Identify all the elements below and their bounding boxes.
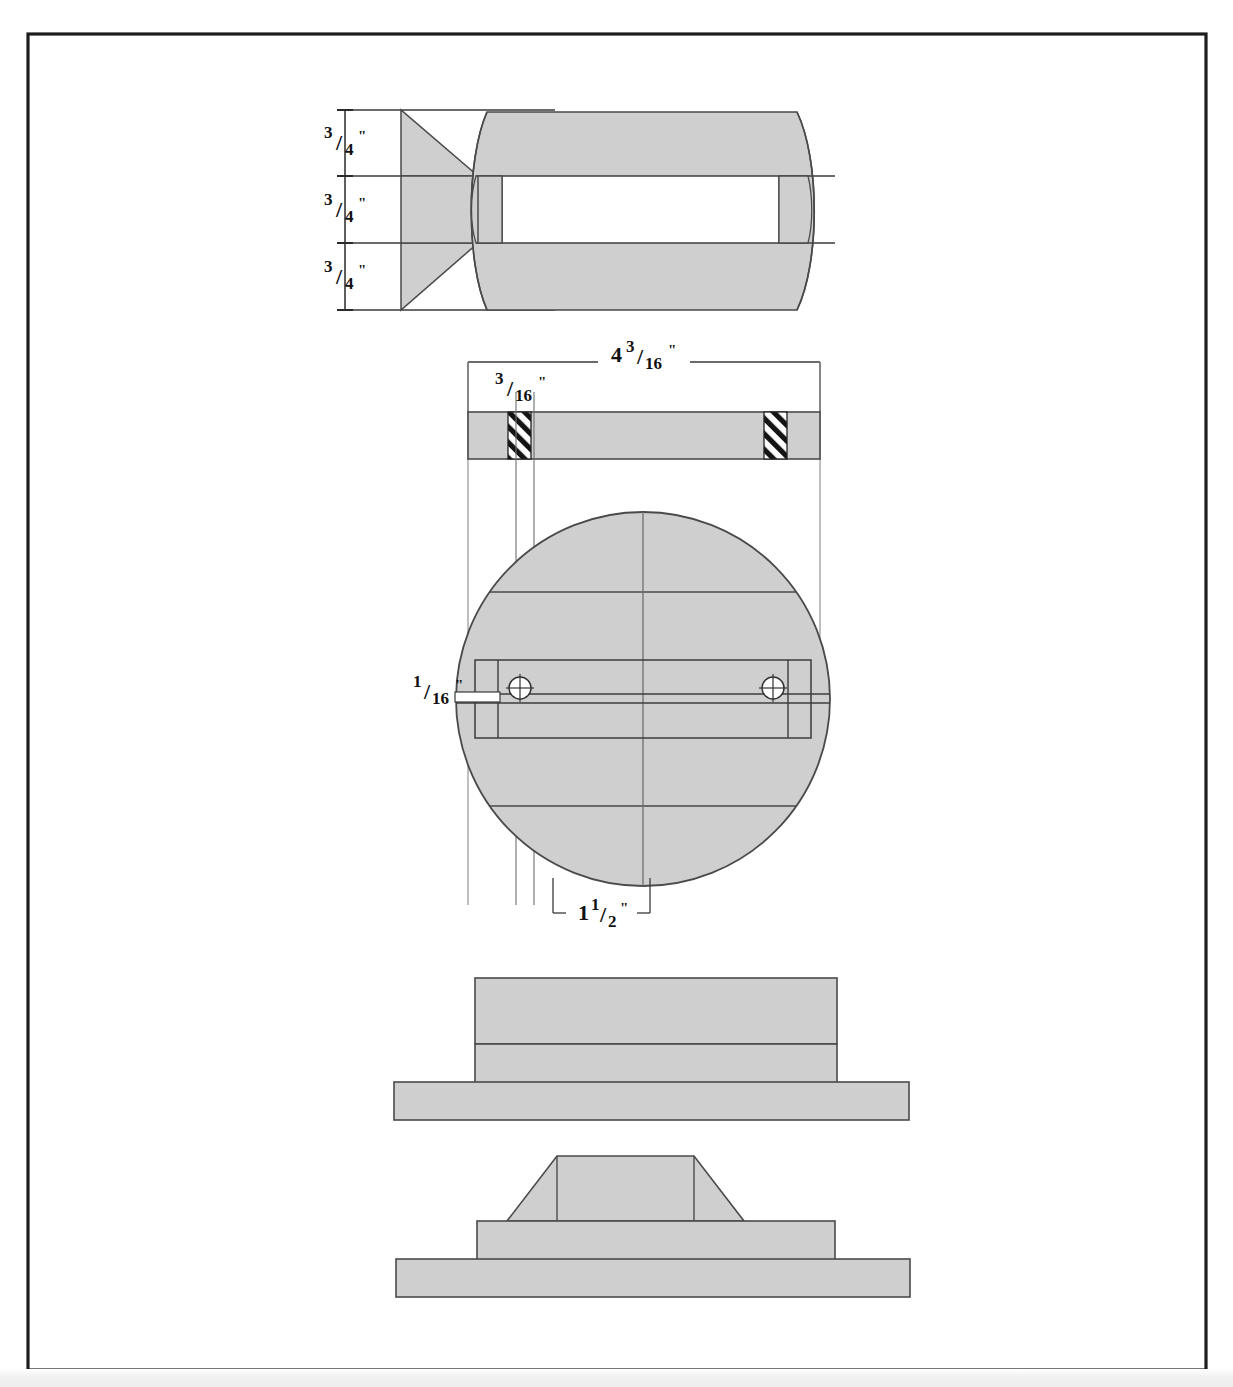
svg-text:3: 3 bbox=[324, 190, 333, 209]
funnel-upper-cone bbox=[401, 110, 478, 176]
svg-text:3: 3 bbox=[324, 257, 333, 276]
view-sectional-side: 3 / 4 " 3 / 4 " 3 / 4 " bbox=[324, 110, 835, 310]
svg-text:/: / bbox=[506, 376, 514, 401]
svg-text:/: / bbox=[335, 130, 343, 155]
svg-text:2: 2 bbox=[608, 912, 617, 931]
svg-text:": " bbox=[538, 374, 546, 390]
stepped-block-upper bbox=[475, 978, 837, 1044]
trapezoid-mid-tier bbox=[477, 1221, 835, 1263]
svg-text:4: 4 bbox=[611, 342, 622, 367]
svg-text:3: 3 bbox=[626, 337, 635, 356]
section-hatch-right bbox=[764, 412, 787, 459]
svg-text:16: 16 bbox=[645, 354, 662, 373]
svg-text:3: 3 bbox=[324, 123, 333, 142]
dim-hole-size-group bbox=[455, 692, 500, 702]
dim-label-hole-offset: 1 1 / 2 " bbox=[578, 895, 628, 931]
svg-text:1: 1 bbox=[413, 672, 422, 691]
section-hatch-left bbox=[508, 412, 531, 459]
funnel-lower-cone bbox=[401, 243, 478, 310]
funnel-neck bbox=[401, 176, 478, 243]
barrel-left-sliver bbox=[472, 176, 503, 243]
scan-edge-artifact bbox=[0, 1369, 1233, 1387]
view-stepped-block bbox=[394, 978, 909, 1120]
svg-text:": " bbox=[358, 195, 366, 211]
svg-text:/: / bbox=[335, 197, 343, 222]
svg-text:1: 1 bbox=[578, 900, 589, 925]
svg-text:16: 16 bbox=[432, 689, 449, 708]
svg-text:3: 3 bbox=[495, 369, 504, 388]
svg-text:": " bbox=[358, 262, 366, 278]
stepped-block-lower bbox=[475, 1044, 837, 1084]
technical-drawing-canvas: 3 / 4 " 3 / 4 " 3 / 4 " bbox=[0, 0, 1233, 1387]
svg-text:/: / bbox=[636, 344, 644, 369]
svg-text:/: / bbox=[599, 902, 607, 927]
svg-text:1: 1 bbox=[591, 895, 600, 914]
svg-text:16: 16 bbox=[515, 386, 532, 405]
view-trapezoid-base bbox=[396, 1156, 910, 1297]
trapezoid-base-plate bbox=[396, 1259, 910, 1297]
svg-text:": " bbox=[620, 900, 628, 916]
dim-label-slot-width: 3 / 16 " bbox=[495, 369, 546, 405]
svg-text:/: / bbox=[335, 264, 343, 289]
dim-label-overall-width: 4 3 / 16 " bbox=[611, 337, 676, 373]
svg-text:4: 4 bbox=[345, 207, 354, 226]
svg-text:": " bbox=[668, 342, 676, 358]
view-plan: 4 3 / 16 " bbox=[413, 337, 846, 931]
svg-text:/: / bbox=[423, 679, 431, 704]
svg-text:": " bbox=[455, 677, 463, 693]
svg-text:": " bbox=[358, 128, 366, 144]
trapezoid-boss bbox=[507, 1156, 744, 1221]
barrel-right-sliver bbox=[779, 176, 812, 243]
barrel-bore-cavity bbox=[476, 176, 806, 243]
svg-text:4: 4 bbox=[345, 274, 354, 293]
drawing-sheet: 3 / 4 " 3 / 4 " 3 / 4 " bbox=[0, 0, 1233, 1387]
stepped-block-base-plate bbox=[394, 1082, 909, 1120]
svg-text:4: 4 bbox=[345, 140, 354, 159]
